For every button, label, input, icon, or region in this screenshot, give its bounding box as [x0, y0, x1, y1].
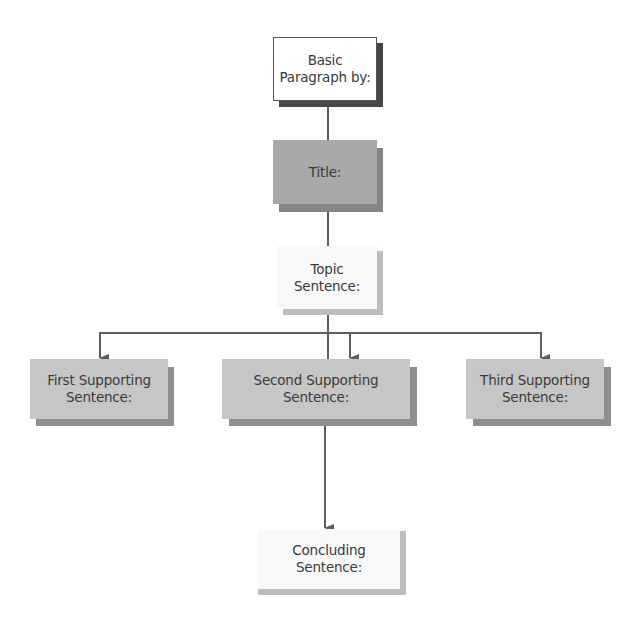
- node-concluding: Concluding Sentence:: [258, 529, 400, 589]
- node-first: First Supporting Sentence:: [30, 359, 168, 419]
- node-third-label: Third Supporting Sentence:: [480, 372, 590, 406]
- node-title: Title:: [273, 140, 377, 204]
- node-topic-label: Topic Sentence:: [294, 261, 360, 295]
- node-third: Third Supporting Sentence:: [466, 359, 604, 419]
- node-concluding-label: Concluding Sentence:: [292, 542, 365, 576]
- node-second: Second Supporting Sentence:: [222, 359, 410, 419]
- node-first-label: First Supporting Sentence:: [47, 372, 151, 406]
- node-second-label: Second Supporting Sentence:: [254, 372, 379, 406]
- node-basic-label: Basic Paragraph by:: [280, 52, 371, 86]
- node-topic: Topic Sentence:: [277, 246, 377, 309]
- node-title-label: Title:: [309, 164, 341, 181]
- node-basic: Basic Paragraph by:: [273, 37, 377, 101]
